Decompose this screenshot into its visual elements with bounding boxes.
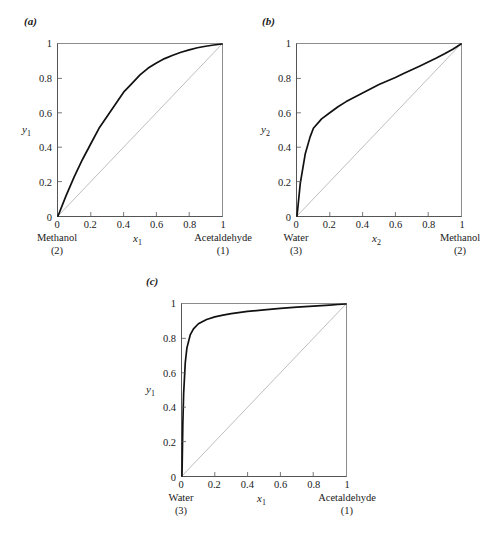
- panel-c-plot-area: [181, 303, 347, 477]
- panel-a-xtick-2: 0.4: [117, 219, 130, 230]
- panel-b-x-axis-label: x2: [372, 232, 381, 247]
- panel-a-left-component-name: Methanol: [37, 232, 77, 243]
- panel-a-svg: [58, 44, 222, 216]
- panel-a-ytick-1: 0.2: [24, 177, 52, 188]
- panel-c-left-component-name: Water: [169, 492, 194, 503]
- panel-a-right-component-number: (1): [194, 244, 252, 257]
- panel-c-y-axis-subscript: 1: [151, 389, 155, 398]
- panel-b-ytick-5: 1: [269, 38, 291, 49]
- panel-a-y-axis-subscript: 1: [27, 129, 31, 138]
- panel-c-letter: (c): [146, 275, 158, 287]
- panel-c-svg: [182, 304, 346, 476]
- panel-a-right-component-name: Acetaldehyde: [194, 232, 252, 243]
- panel-c-right-component-name: Acetaldehyde: [318, 492, 376, 503]
- panel-c-ytick-3: 0.6: [148, 367, 176, 378]
- panel-a-left-component: Methanol (2): [37, 231, 77, 257]
- panel-a-right-component: Acetaldehyde (1): [194, 231, 252, 257]
- panel-a-y-axis-label: y1: [22, 123, 31, 138]
- panel-b-xtick-0: 0: [293, 219, 298, 230]
- panel-c-ytick-4: 0.8: [148, 332, 176, 343]
- panel-a-plot-area: [57, 43, 223, 217]
- panel-b-svg: [297, 44, 461, 216]
- panel-b-ytick-1: 0.2: [263, 177, 291, 188]
- panel-c-left-component: Water (3): [169, 491, 194, 517]
- panel-b-ytick-2: 0.4: [263, 142, 291, 153]
- panel-c-diagonal-line: [182, 304, 346, 476]
- panel-b-y-axis-label: y2: [261, 123, 270, 138]
- panel-b-letter: (b): [262, 15, 275, 27]
- panel-b-ytick-4: 0.8: [263, 72, 291, 83]
- panel-b-xtick-2: 0.4: [356, 219, 369, 230]
- panel-b-left-component: Water (3): [284, 231, 309, 257]
- panel-b-ytick-3: 0.6: [263, 107, 291, 118]
- panel-a-ytick-0: 0: [30, 212, 52, 223]
- panel-b-left-component-name: Water: [284, 232, 309, 243]
- panel-b-xtick-4: 0.8: [422, 219, 435, 230]
- panel-a-ytick-2: 0.4: [24, 142, 52, 153]
- panel-a-xtick-4: 0.8: [183, 219, 196, 230]
- panel-c-left-component-number: (3): [169, 504, 194, 517]
- panel-b-left-component-number: (3): [284, 244, 309, 257]
- panel-b-xtick-1: 0.2: [323, 219, 336, 230]
- panel-c-ytick-2: 0.4: [148, 402, 176, 413]
- panel-c-xtick-3: 0.6: [274, 479, 287, 490]
- panel-b-plot-area: [296, 43, 462, 217]
- panel-b-xtick-5: 1: [459, 219, 464, 230]
- panel-b-x-axis-subscript: 2: [377, 238, 381, 247]
- panel-c-xtick-5: 1: [344, 479, 349, 490]
- panel-a-ytick-4: 0.8: [24, 72, 52, 83]
- panel-c-xtick-4: 0.8: [307, 479, 320, 490]
- panel-b-ytick-0: 0: [269, 212, 291, 223]
- panel-c-xtick-2: 0.4: [241, 479, 254, 490]
- panel-c-xtick-1: 0.2: [208, 479, 221, 490]
- panel-a-x-axis-label: x1: [133, 232, 142, 247]
- panel-a-left-component-number: (2): [37, 244, 77, 257]
- panel-c-right-component-number: (1): [318, 504, 376, 517]
- panel-c-x-axis-label: x1: [257, 492, 266, 507]
- panel-a-xtick-1: 0.2: [84, 219, 97, 230]
- panel-c-ytick-0: 0: [154, 472, 176, 483]
- panel-b-right-component-number: (2): [440, 244, 480, 257]
- panel-c-ytick-1: 0.2: [148, 437, 176, 448]
- panel-a-x-axis-subscript: 1: [138, 238, 142, 247]
- panel-a-ytick-5: 1: [30, 38, 52, 49]
- panel-c-x-axis-subscript: 1: [262, 498, 266, 507]
- panel-b-y-axis-subscript: 2: [266, 129, 270, 138]
- panel-c-ytick-5: 1: [154, 298, 176, 309]
- panel-a-xtick-5: 1: [220, 219, 225, 230]
- panel-a-xtick-0: 0: [54, 219, 59, 230]
- panel-b-diagonal-line: [297, 44, 461, 216]
- panel-a-diagonal-line: [58, 44, 222, 216]
- panel-b-right-component-name: Methanol: [440, 232, 480, 243]
- panel-b-xtick-3: 0.6: [389, 219, 402, 230]
- panel-c-right-component: Acetaldehyde (1): [318, 491, 376, 517]
- panel-a-letter: (a): [24, 15, 37, 27]
- panel-b-right-component: Methanol (2): [440, 231, 480, 257]
- panel-a-xtick-3: 0.6: [150, 219, 163, 230]
- panel-c-y-axis-label: y1: [146, 383, 155, 398]
- panel-c-xtick-0: 0: [178, 479, 183, 490]
- panel-a-ytick-3: 0.6: [24, 107, 52, 118]
